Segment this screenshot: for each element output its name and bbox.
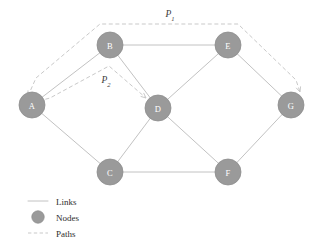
legend-label-nodes: Nodes (56, 213, 79, 223)
link-b-d (117, 55, 150, 99)
node-d[interactable]: D (145, 95, 171, 121)
legend-label-paths: Paths (56, 229, 76, 239)
path-label-p1: P1 (164, 9, 174, 22)
node-e[interactable]: E (215, 32, 241, 58)
legend-circle-icon (32, 211, 44, 223)
node-g[interactable]: G (278, 92, 304, 118)
path-label-sub-p1: 1 (171, 15, 174, 22)
node-c[interactable]: C (97, 159, 123, 185)
node-b[interactable]: B (97, 32, 123, 58)
link-a-c (41, 113, 101, 164)
legend-item-paths[interactable]: Paths (28, 229, 76, 239)
link-d-f (167, 116, 219, 164)
node-label-c: C (107, 168, 113, 178)
node-label-f: F (226, 168, 231, 178)
node-label-d: D (155, 104, 161, 114)
link-f-g (236, 114, 283, 164)
node-label-g: G (288, 101, 294, 111)
legend-label-links: Links (56, 197, 77, 207)
legend: LinksNodesPaths (28, 197, 79, 239)
legend-item-links[interactable]: Links (28, 197, 77, 207)
node-label-e: E (225, 41, 230, 51)
link-d-e (167, 53, 219, 100)
path-p1 (28, 24, 300, 96)
node-a[interactable]: A (19, 92, 45, 118)
graph-canvas: ABCDEFG P1P2 LinksNodesPaths (0, 0, 321, 248)
path-label-p2: P2 (100, 75, 111, 88)
node-label-a: A (29, 101, 36, 111)
link-c-d (117, 118, 151, 163)
node-f[interactable]: F (215, 159, 241, 185)
node-label-b: B (107, 41, 113, 51)
link-a-b (42, 52, 101, 97)
legend-item-nodes[interactable]: Nodes (32, 211, 80, 223)
network-diagram-figure: ABCDEFG P1P2 LinksNodesPaths (0, 0, 321, 248)
nodes-group: ABCDEFG (19, 32, 304, 185)
path-label-sub-p2: 2 (107, 81, 111, 88)
paths-group (28, 24, 301, 101)
